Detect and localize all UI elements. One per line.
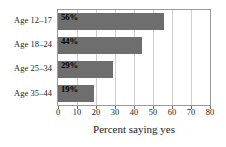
bar-value-label-age-35-44: 19% [58, 85, 78, 94]
category-label-age-12-17: Age 12–17 [14, 17, 52, 25]
category-label-row: Age 25–34 [0, 58, 55, 82]
plot-area: 56% 44% 29% 19% [57, 9, 211, 106]
table-row: 29% [58, 58, 210, 82]
bar-chart-figure: Age 12–17 Age 18–24 Age 25–34 Age 35–44 … [0, 0, 226, 147]
category-label-age-18-24: Age 18–24 [14, 41, 52, 49]
x-tick-label-30: 30 [111, 109, 119, 117]
x-tick-label-20: 20 [92, 109, 100, 117]
bar-value-label-age-18-24: 44% [58, 37, 78, 46]
plot-inner: 56% 44% 29% 19% [58, 10, 210, 105]
bar-age-25-34: 29% [58, 61, 113, 78]
x-tick-label-50: 50 [149, 109, 157, 117]
x-tick-label-40: 40 [130, 109, 138, 117]
category-label-row: Age 35–44 [0, 82, 55, 106]
x-tick-label-10: 10 [73, 109, 81, 117]
x-tick-label-70: 70 [187, 109, 195, 117]
bar-age-35-44: 19% [58, 85, 94, 102]
category-label-age-35-44: Age 35–44 [14, 90, 52, 98]
category-label-row: Age 18–24 [0, 33, 55, 57]
x-axis-title: Percent saying yes [57, 124, 211, 135]
table-row: 56% [58, 10, 210, 34]
x-axis-tick-labels: 01020304050607080 [57, 109, 211, 121]
bar-value-label-age-25-34: 29% [58, 61, 78, 70]
category-axis-labels: Age 12–17 Age 18–24 Age 25–34 Age 35–44 [0, 9, 55, 106]
x-tick-label-80: 80 [206, 109, 214, 117]
x-tick-label-0: 0 [56, 109, 60, 117]
bar-value-label-age-12-17: 56% [58, 13, 78, 22]
bar-age-12-17: 56% [58, 13, 164, 30]
x-tick-label-60: 60 [168, 109, 176, 117]
category-label-age-25-34: Age 25–34 [14, 65, 52, 73]
category-label-row: Age 12–17 [0, 9, 55, 33]
table-row: 19% [58, 81, 210, 105]
bars-layer: 56% 44% 29% 19% [58, 10, 210, 105]
table-row: 44% [58, 34, 210, 58]
bar-age-18-24: 44% [58, 37, 142, 54]
